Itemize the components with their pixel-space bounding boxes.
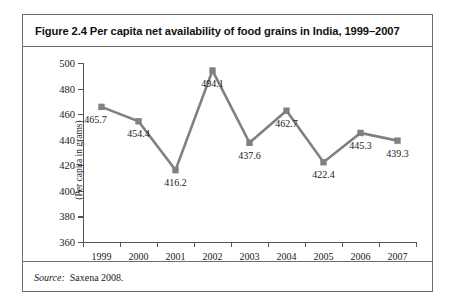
source-label: Source:: [34, 272, 65, 283]
y-tick-label: 460: [59, 109, 75, 120]
data-point-marker: [283, 107, 289, 113]
data-point-marker: [357, 130, 363, 136]
data-point-marker: [98, 104, 104, 110]
x-axis-line: [83, 242, 416, 243]
x-tick: [416, 242, 417, 247]
y-tick-label: 360: [59, 237, 75, 248]
data-point-marker: [172, 167, 178, 173]
data-point-marker: [135, 118, 141, 124]
data-point-marker: [394, 137, 400, 143]
y-tick-label: 480: [59, 83, 75, 94]
figure-title: Figure 2.4 Per capita net availability o…: [35, 25, 423, 37]
x-tick: [231, 242, 232, 247]
source-divider: [23, 261, 432, 262]
x-tick: [342, 242, 343, 247]
data-point-label: 494.1: [201, 78, 224, 89]
data-point-label: 422.4: [312, 169, 335, 180]
data-point-label: 416.2: [164, 177, 187, 188]
x-tick: [305, 242, 306, 247]
y-tick-label: 380: [59, 211, 75, 222]
source-note: Source:Saxena 2008.: [34, 272, 124, 283]
data-point-marker: [246, 140, 252, 146]
x-tick: [194, 242, 195, 247]
data-point-label: 454.4: [127, 128, 150, 139]
x-tick: [268, 242, 269, 247]
data-point-marker: [209, 67, 215, 73]
chart-plot-area: (Per capita in grams) 360380400420440460…: [83, 63, 416, 256]
y-tick-label: 440: [59, 134, 75, 145]
title-divider: [23, 46, 432, 47]
y-tick-label: 400: [59, 185, 75, 196]
data-point-label: 465.7: [84, 114, 107, 125]
y-tick-label: 500: [59, 58, 75, 69]
data-point-label: 445.3: [349, 140, 372, 151]
figure-panel: Figure 2.4 Per capita net availability o…: [22, 14, 433, 292]
x-tick: [83, 242, 84, 247]
data-point-marker: [320, 159, 326, 165]
data-point-label: 439.3: [386, 148, 409, 159]
data-point-label: 437.6: [238, 150, 261, 161]
x-tick: [157, 242, 158, 247]
data-point-label: 462.7: [275, 118, 298, 129]
y-tick-label: 420: [59, 160, 75, 171]
x-tick: [120, 242, 121, 247]
x-tick: [379, 242, 380, 247]
source-value: Saxena 2008.: [70, 272, 124, 283]
